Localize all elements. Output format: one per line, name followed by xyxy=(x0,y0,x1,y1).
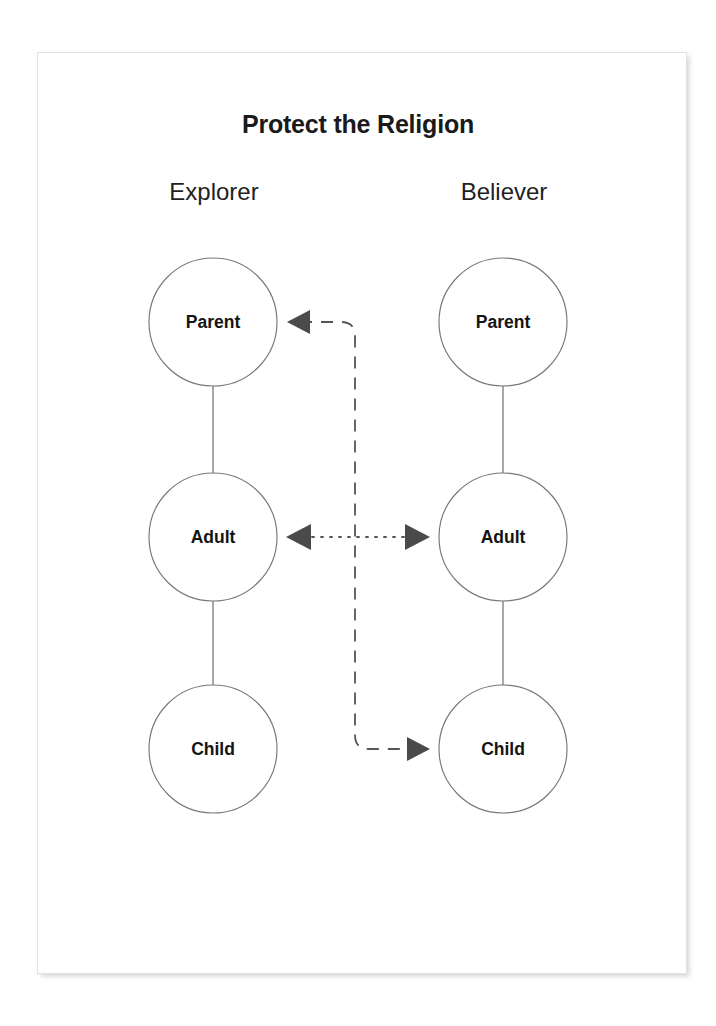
node-label-believer-adult: Adult xyxy=(481,527,526,547)
node-believer-child[interactable]: Child xyxy=(439,685,567,813)
node-explorer-adult[interactable]: Adult xyxy=(149,473,277,601)
column-header-believer: Believer xyxy=(404,178,604,206)
page-title: Protect the Religion xyxy=(0,110,716,139)
node-label-believer-child: Child xyxy=(481,739,525,759)
column-header-explorer: Explorer xyxy=(114,178,314,206)
node-explorer-child[interactable]: Child xyxy=(149,685,277,813)
node-label-explorer-parent: Parent xyxy=(186,312,241,332)
node-explorer-parent[interactable]: Parent xyxy=(149,258,277,386)
node-label-believer-parent: Parent xyxy=(476,312,531,332)
node-label-explorer-adult: Adult xyxy=(191,527,236,547)
node-believer-adult[interactable]: Adult xyxy=(439,473,567,601)
node-label-explorer-child: Child xyxy=(191,739,235,759)
node-believer-parent[interactable]: Parent xyxy=(439,258,567,386)
